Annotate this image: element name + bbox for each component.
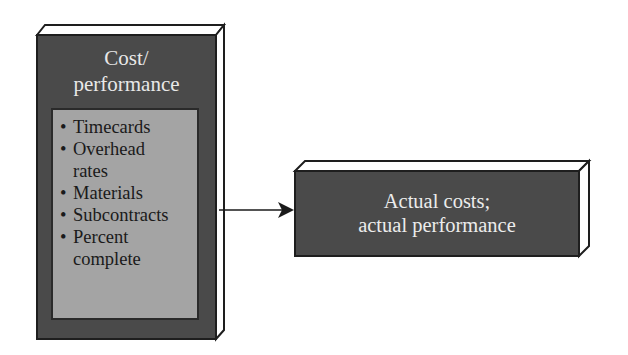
list-item-text: rates — [73, 160, 200, 182]
list-item-overhead-rates: Overhead rates — [60, 138, 200, 182]
list-item-subcontracts: Subcontracts — [60, 204, 200, 226]
list-item-text: complete — [73, 248, 200, 270]
list-item-text: Timecards — [73, 116, 200, 138]
target-box-label: Actual costs; actual performance — [295, 189, 579, 237]
source-box-title: Cost/ performance — [37, 45, 216, 97]
source-box-side-face — [216, 25, 224, 339]
target-box-side-face — [579, 161, 589, 256]
list-item-timecards: Timecards — [60, 116, 200, 138]
source-title-line: performance — [37, 71, 216, 97]
source-box-list: Timecards Overhead rates Materials Subco… — [60, 116, 200, 270]
list-item-text: Materials — [73, 182, 200, 204]
target-label-line: Actual costs; — [295, 189, 579, 213]
target-box-top-face — [295, 161, 589, 171]
list-item-materials: Materials — [60, 182, 200, 204]
list-item-text: Subcontracts — [73, 204, 200, 226]
list-item-percent-complete: Percent complete — [60, 226, 200, 270]
list-item-text: Percent — [73, 226, 200, 248]
list-item-text: Overhead — [73, 138, 200, 160]
source-title-line: Cost/ — [37, 45, 216, 71]
target-label-line: actual performance — [295, 213, 579, 237]
source-box-top-face — [37, 25, 224, 35]
